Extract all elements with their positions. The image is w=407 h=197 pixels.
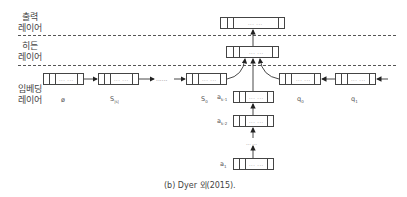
diagram-arrows	[0, 0, 407, 197]
figure-caption: (b) Dyer 외(2015).	[164, 179, 236, 190]
